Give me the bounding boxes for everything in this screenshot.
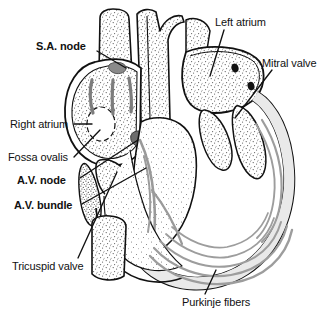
conduction-arrow-2 xyxy=(112,80,113,114)
label-av-node: A.V. node xyxy=(17,174,66,186)
mitral-valve-leaflet-posterior xyxy=(232,106,265,179)
aorta-cut xyxy=(137,10,184,122)
label-right-atrium: Right atrium xyxy=(10,118,68,130)
sa-node-marker xyxy=(109,62,127,73)
right-atrium-group xyxy=(65,59,147,166)
inferior-vena-cava xyxy=(92,216,126,280)
mitral-valve-leaflet-anterior xyxy=(199,110,232,170)
left-atrium-wall xyxy=(182,47,264,113)
left-atrium-group xyxy=(182,47,264,113)
label-left-atrium: Left atrium xyxy=(215,16,266,28)
heart-conduction-diagram: S.A. node Right atrium Fossa ovalis A.V.… xyxy=(0,0,327,314)
label-fossa-ovalis: Fossa ovalis xyxy=(8,151,68,163)
label-tricuspid-valve: Tricuspid valve xyxy=(12,260,83,272)
label-sa-node: S.A. node xyxy=(36,40,86,52)
label-purkinje-fibers: Purkinje fibers xyxy=(182,296,250,308)
label-mitral-valve: Mitral valve xyxy=(262,57,316,69)
label-av-bundle: A.V. bundle xyxy=(14,199,72,211)
